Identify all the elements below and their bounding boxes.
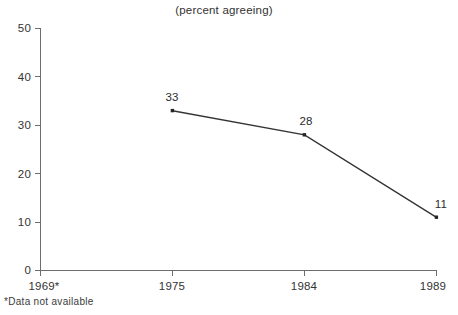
data-point-1975 — [171, 109, 174, 112]
y-axis-label-30: 30 — [0, 119, 31, 131]
data-point-1989 — [435, 216, 438, 219]
x-axis-label-1975: 1975 — [159, 280, 185, 292]
y-axis-label-0: 0 — [0, 264, 31, 276]
plot-area — [0, 0, 458, 315]
x-axis-label-1984: 1984 — [291, 280, 317, 292]
y-axis-label-20: 20 — [0, 168, 31, 180]
chart-footnote: *Data not available — [4, 296, 94, 307]
x-axis-label-1989: 1989 — [420, 280, 446, 292]
data-label-1975: 33 — [165, 91, 178, 103]
y-axis-label-50: 50 — [0, 22, 31, 34]
data-label-1984: 28 — [299, 115, 312, 127]
data-point-1984 — [303, 133, 306, 136]
y-axis-label-40: 40 — [0, 71, 31, 83]
line-chart-figure: (percent agreeing) 50 40 30 20 10 0 1969… — [0, 0, 458, 315]
data-label-1989: 11 — [435, 198, 447, 210]
y-axis-label-10: 10 — [0, 216, 31, 228]
x-axis-label-1969: 1969* — [28, 280, 59, 292]
